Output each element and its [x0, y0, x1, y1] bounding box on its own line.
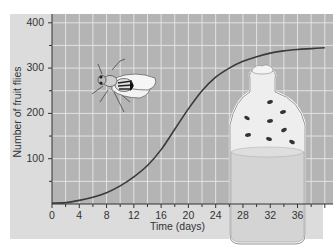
y-axis-label: Number of fruit flies [11, 57, 23, 167]
x-tick-label: 12 [124, 209, 144, 221]
x-axis-label: Time (days) [150, 220, 205, 232]
x-tick-label: 8 [97, 209, 117, 221]
x-tick-label: 4 [69, 209, 89, 221]
x-tick-label: 24 [206, 209, 226, 221]
x-tick-label: 0 [42, 209, 62, 221]
x-tick-label: 32 [260, 209, 280, 221]
x-tick-label: 28 [233, 209, 253, 221]
x-tick-label: 36 [288, 209, 308, 221]
y-tick-label: 400 [16, 16, 44, 28]
